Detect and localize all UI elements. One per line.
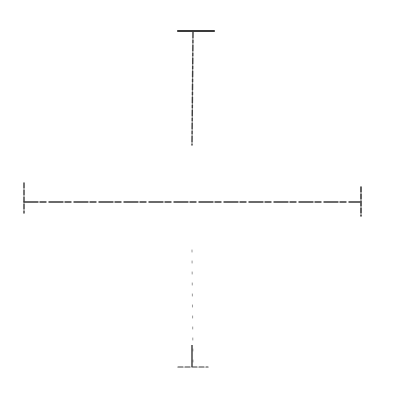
vertical-upper-line (192, 32, 193, 145)
crosshair-sketch (0, 0, 400, 401)
